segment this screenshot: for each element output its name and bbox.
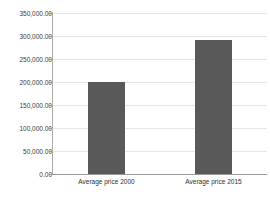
y-axis-tick-labels: 350,000.00300,000.00250,000.00200,000.00… [0,0,52,203]
bar[interactable] [88,82,125,174]
gridline [53,59,267,60]
x-axis-line [52,174,267,175]
y-axis-tick-label: 250,000.00 [2,56,52,63]
y-axis-tick-label: 350,000.00 [2,10,52,17]
x-axis-category-label: Average price 2015 [160,178,267,186]
bar-chart: 350,000.00300,000.00250,000.00200,000.00… [0,0,270,203]
y-axis-tick-label: 300,000.00 [2,33,52,40]
y-axis-tick-label: 150,000.00 [2,102,52,109]
y-axis-line [52,12,53,175]
y-axis-tick-label: 0.00 [2,171,52,178]
gridline [53,128,267,129]
gridline [53,151,267,152]
bar[interactable] [195,40,232,174]
gridline [53,82,267,83]
gridline [53,13,267,14]
y-axis-tick-label: 50,000.00 [2,148,52,155]
gridline [53,105,267,106]
y-axis-tick-label: 100,000.00 [2,125,52,132]
y-axis-tick-label: 200,000.00 [2,79,52,86]
plot-area [53,13,267,174]
gridline [53,36,267,37]
x-axis-category-label: Average price 2000 [53,178,160,186]
